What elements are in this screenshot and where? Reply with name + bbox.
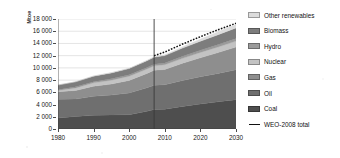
legend-item-label: WEO-2008 total — [264, 121, 309, 128]
y-tick-label: 14 000 — [33, 40, 52, 46]
x-tick-label: 1980 — [51, 134, 65, 141]
legend-swatch-icon — [248, 106, 260, 112]
legend-item-label: Biomass — [264, 27, 289, 34]
y-tick-mark — [53, 129, 56, 130]
x-tick-label: 2030 — [229, 134, 243, 141]
y-tick-mark — [53, 68, 56, 69]
legend-item[interactable]: Biomass — [248, 26, 289, 36]
y-tick-mark — [53, 117, 56, 118]
plot-area — [58, 19, 236, 129]
x-tick-mark — [129, 129, 130, 132]
y-tick-label: 18 000 — [33, 16, 52, 22]
legend-swatch-icon — [248, 12, 260, 18]
chart-figure: Mtoe 02 0004 0006 0008 00010 00012 00014… — [0, 0, 340, 158]
legend-item[interactable]: Oil — [248, 88, 272, 98]
legend-item-label: Coal — [264, 105, 277, 112]
x-tick-mark — [200, 129, 201, 132]
y-tick-mark — [53, 56, 56, 57]
legend-item-label: Gas — [264, 74, 276, 81]
legend-swatch-icon — [248, 74, 260, 80]
legend-item[interactable]: WEO-2008 total — [248, 119, 309, 129]
legend-item-label: Oil — [264, 90, 272, 97]
legend-item-label: Nuclear — [264, 58, 286, 65]
y-tick-label: 12 000 — [33, 53, 52, 59]
legend-item[interactable]: Nuclear — [248, 57, 286, 67]
x-tick-label: 2020 — [193, 134, 207, 141]
y-tick-label: 6 000 — [36, 89, 52, 95]
legend-item[interactable]: Hydro — [248, 41, 281, 51]
y-tick-mark — [53, 105, 56, 106]
x-axis-ticks: 198019902000201020202030 — [58, 131, 236, 147]
legend-item-label: Other renewables — [264, 12, 314, 19]
y-tick-mark — [53, 43, 56, 44]
y-axis-ticks: 02 0004 0006 0008 00010 00012 00014 0001… — [18, 19, 56, 129]
y-tick-label: 4 000 — [36, 101, 52, 107]
area-series-group — [58, 24, 236, 129]
y-tick-mark — [53, 80, 56, 81]
legend-swatch-icon — [248, 59, 260, 65]
legend-item[interactable]: Coal — [248, 104, 277, 114]
y-tick-label: 10 000 — [33, 65, 52, 71]
stacked-area-plot — [58, 19, 236, 129]
y-tick-mark — [53, 92, 56, 93]
y-tick-label: 16 000 — [33, 28, 52, 34]
x-tick-mark — [236, 129, 237, 132]
x-tick-label: 2000 — [122, 134, 136, 141]
legend-item[interactable]: Other renewables — [248, 10, 314, 20]
y-tick-label: 8 000 — [36, 77, 52, 83]
legend-swatch-icon — [248, 28, 260, 34]
y-tick-label: 2 000 — [36, 114, 52, 120]
legend-item[interactable]: Gas — [248, 72, 276, 82]
legend-line-icon — [249, 124, 260, 125]
legend-swatch-icon — [248, 90, 260, 96]
y-tick-label: 0 — [48, 126, 52, 132]
x-tick-label: 1990 — [86, 134, 100, 141]
y-tick-mark — [53, 31, 56, 32]
x-tick-mark — [94, 129, 95, 132]
y-tick-mark — [53, 19, 56, 20]
legend-swatch-icon — [248, 43, 260, 49]
x-tick-label: 2010 — [158, 134, 172, 141]
chart-legend: Other renewablesBiomassHydroNuclearGasOi… — [248, 10, 340, 138]
x-tick-mark — [58, 129, 59, 132]
x-tick-mark — [165, 129, 166, 132]
legend-item-label: Hydro — [264, 43, 281, 50]
